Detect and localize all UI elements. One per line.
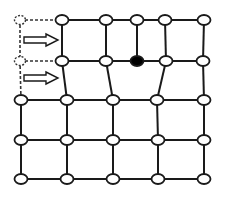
mesh-node	[160, 56, 173, 66]
right-arrow-icon	[24, 72, 58, 84]
mesh-node	[152, 135, 165, 145]
mesh-edge	[157, 100, 158, 140]
mesh-node	[15, 95, 28, 105]
mesh-node	[61, 135, 74, 145]
mesh-edge	[203, 20, 204, 61]
mesh-node	[15, 135, 28, 145]
mesh-node	[159, 15, 172, 25]
mesh-node	[198, 174, 211, 184]
mesh-edge	[106, 61, 113, 100]
ghost-node	[15, 57, 26, 66]
mesh-node	[198, 135, 211, 145]
mesh-node	[107, 174, 120, 184]
mesh-edge	[165, 20, 166, 61]
mesh-node	[15, 174, 28, 184]
ghost-node	[15, 16, 26, 25]
mesh-node	[152, 174, 165, 184]
mesh-node	[151, 95, 164, 105]
mesh-edge	[157, 61, 166, 100]
mesh-diagram	[0, 0, 226, 198]
mesh-node	[100, 15, 113, 25]
mesh-node	[61, 174, 74, 184]
arrows	[24, 34, 58, 84]
mesh-node	[56, 15, 69, 25]
mesh-node	[61, 95, 74, 105]
mesh-node	[198, 15, 211, 25]
mesh-node	[198, 95, 211, 105]
mesh-node	[197, 56, 210, 66]
mesh-node	[107, 95, 120, 105]
filled-node	[131, 56, 144, 66]
mesh-node	[107, 135, 120, 145]
mesh-node	[100, 56, 113, 66]
mesh-diagram-svg	[0, 0, 226, 198]
mesh-node	[131, 15, 144, 25]
right-arrow-icon	[24, 34, 58, 46]
mesh-node	[56, 56, 69, 66]
